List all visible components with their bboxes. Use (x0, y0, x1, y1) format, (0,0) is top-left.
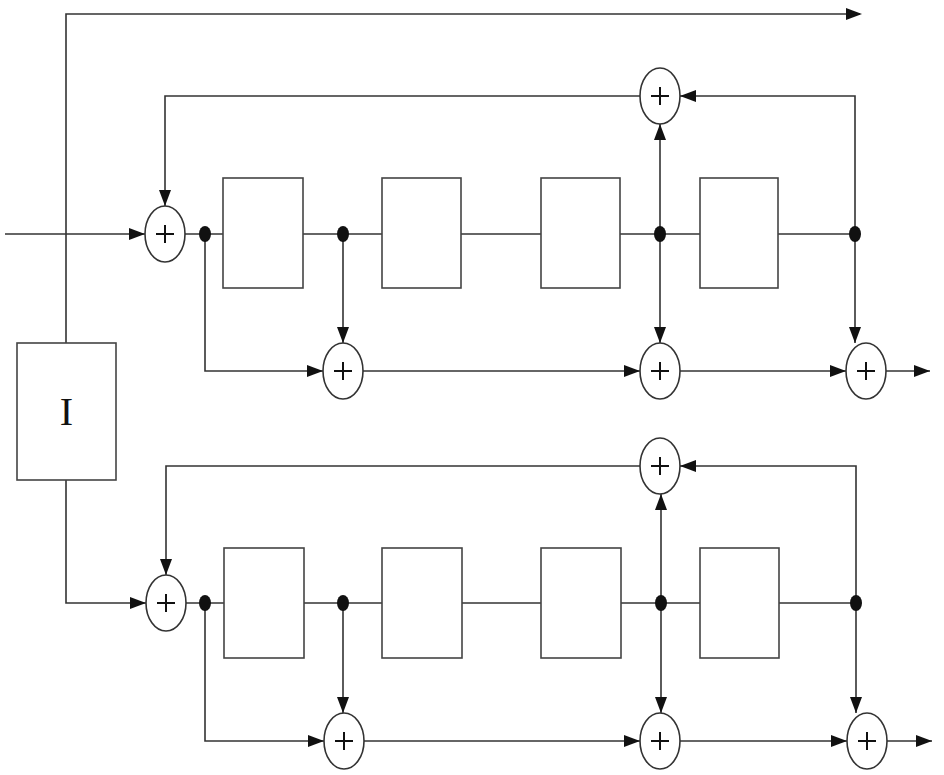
encoder-1-parity-down-arrow-icon (849, 327, 861, 343)
encoder2-input-arrow-icon (130, 597, 146, 609)
wires (5, 14, 932, 741)
encoder-2-junction-dot-4 (850, 595, 862, 611)
encoder-2-parity-adder-1 (324, 713, 364, 769)
encoder-1-parity-adder-2 (640, 343, 680, 399)
encoder-1-feedback-down-arrow-icon (159, 190, 171, 206)
encoder-1-delay-box-1 (223, 178, 303, 288)
encoder-1-junction-dot-3 (654, 226, 666, 242)
blocks (223, 178, 779, 658)
encoder-1-junction-dot-4 (849, 226, 861, 242)
encoder-1-parity-down-arrow-icon (337, 327, 349, 343)
encoder-2-input-adder (146, 575, 186, 631)
encoder-2-parity-adder-3 (847, 713, 887, 769)
encoder-1-feedback-up-arrow-icon (654, 124, 666, 140)
interleaver-label: I (60, 389, 73, 434)
encoder-1-delay-box-4 (700, 178, 778, 288)
encoder-2-delay-box-3 (541, 548, 621, 658)
encoder-1-parity-adder-3 (846, 343, 886, 399)
encoder-2-parity-arrow-icon (308, 735, 324, 747)
encoder-2-feedback-down-arrow-icon (160, 559, 172, 575)
encoder-1-input-adder (145, 206, 185, 262)
encoder-2-parity-arrow-icon (831, 735, 847, 747)
systematic-output-arrow-icon (846, 8, 862, 20)
encoder-2-delay-box-1 (224, 548, 304, 658)
encoder-2-parity-down-arrow-icon (655, 697, 667, 713)
encoder-1-feedback-adder (640, 68, 680, 124)
encoder-1-parity-arrow-icon (830, 365, 846, 377)
encoder-2-parity-arrow-icon (624, 735, 640, 747)
encoder-1-delay-box-2 (382, 178, 461, 288)
encoder-2-junction-dot-2 (337, 595, 349, 611)
interleaver-to-encoder2-line (66, 480, 146, 603)
encoder-2-junction-dot-1 (199, 595, 211, 611)
encoder-1-parity-adder-1 (323, 343, 363, 399)
encoder-1-feedback-arrow-icon (680, 90, 696, 102)
encoder-1-delay-box-3 (541, 178, 620, 288)
encoder1-input-arrow-icon (129, 228, 145, 240)
encoder-2-feedback-arrow-icon (680, 460, 696, 472)
encoder-2-parity-down-arrow-icon (850, 697, 862, 713)
encoder-1-parity-arrow-icon (307, 365, 323, 377)
encoder-2-parity-down-arrow-icon (337, 697, 349, 713)
encoder-2-parity-adder-2 (640, 713, 680, 769)
encoder-2-feedback-adder (640, 438, 680, 494)
encoder-1-junction-dot-1 (199, 226, 211, 242)
interleaver-block: I (17, 343, 116, 480)
encoder-1-parity-arrow-icon (624, 365, 640, 377)
encoder-2-feedback-up-arrow-icon (655, 494, 667, 510)
encoder-2-delay-box-2 (382, 548, 462, 658)
encoder-1-output-arrow-icon (914, 365, 930, 377)
turbo-encoder-diagram: I (0, 0, 944, 775)
encoder-2-output-arrow-icon (916, 735, 932, 747)
encoder-2-junction-dot-3 (655, 595, 667, 611)
encoder-1-junction-dot-2 (337, 226, 349, 242)
encoder-2-delay-box-4 (700, 548, 779, 658)
encoder-1-parity-down-arrow-icon (654, 327, 666, 343)
